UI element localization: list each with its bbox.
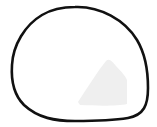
drawing-canvas <box>0 0 157 127</box>
drawing-svg <box>0 0 157 127</box>
shaded-region <box>78 60 127 106</box>
